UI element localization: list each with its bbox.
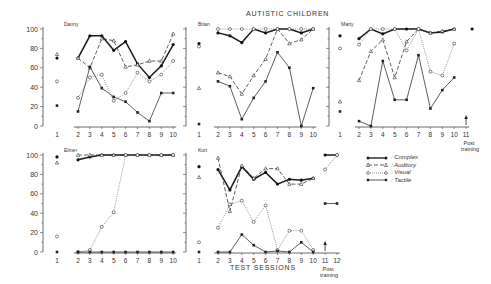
panel-elmer: 02040608010012345678910Elmer xyxy=(26,147,177,264)
svg-text:11: 11 xyxy=(463,131,470,138)
svg-text:10: 10 xyxy=(170,257,178,264)
svg-text:10: 10 xyxy=(310,131,318,138)
complex-line-icon xyxy=(366,155,388,161)
tactile-line-icon xyxy=(366,177,388,183)
svg-text:2: 2 xyxy=(357,131,361,138)
svg-text:60: 60 xyxy=(30,64,38,71)
svg-text:7: 7 xyxy=(276,131,280,138)
svg-text:8: 8 xyxy=(288,131,292,138)
svg-text:40: 40 xyxy=(30,84,38,91)
svg-text:3: 3 xyxy=(88,257,92,264)
svg-text:20: 20 xyxy=(30,103,38,110)
legend-item-visual: : Visual xyxy=(366,169,418,177)
svg-text:7: 7 xyxy=(276,257,280,264)
svg-text:20: 20 xyxy=(30,229,38,236)
svg-text:training: training xyxy=(320,272,338,278)
figure-title: AUTISTIC CHILDREN xyxy=(246,10,329,17)
svg-text:9: 9 xyxy=(159,257,163,264)
svg-text:4: 4 xyxy=(100,131,104,138)
svg-text:6: 6 xyxy=(124,131,128,138)
svg-text:1: 1 xyxy=(197,257,201,264)
svg-text:Marty: Marty xyxy=(341,21,354,27)
svg-text:8: 8 xyxy=(148,257,152,264)
figure-canvas: 02040608010012345678910Danny12345678910B… xyxy=(0,0,491,284)
svg-text:9: 9 xyxy=(299,257,303,264)
svg-text:4: 4 xyxy=(381,131,385,138)
x-axis-label: TEST SESSIONS xyxy=(230,264,296,271)
svg-text:Danny: Danny xyxy=(64,21,79,27)
panel-kurt: 123456789101112KurtPosttraining xyxy=(183,147,341,278)
svg-text:Elmer: Elmer xyxy=(64,147,77,153)
svg-text:Kurt: Kurt xyxy=(198,147,208,153)
svg-text:8: 8 xyxy=(288,257,292,264)
svg-text:100: 100 xyxy=(26,26,38,33)
svg-text:9: 9 xyxy=(299,131,303,138)
svg-text:3: 3 xyxy=(228,257,232,264)
svg-text:60: 60 xyxy=(30,190,38,197)
svg-text:5: 5 xyxy=(112,257,116,264)
svg-text:training: training xyxy=(461,146,479,152)
legend-item-auditory: : Auditory xyxy=(366,162,418,170)
svg-text:4: 4 xyxy=(240,257,244,264)
panel-danny: 02040608010012345678910Danny xyxy=(26,21,177,138)
auditory-line-icon xyxy=(366,162,388,168)
svg-text:6: 6 xyxy=(405,131,409,138)
svg-text:5: 5 xyxy=(112,131,116,138)
legend-item-tactile: : Tactile xyxy=(366,177,418,185)
svg-text:10: 10 xyxy=(170,131,178,138)
svg-text:6: 6 xyxy=(264,257,268,264)
panel-marty: 1234567891011MartyPosttraining xyxy=(326,21,479,152)
svg-text:7: 7 xyxy=(136,131,140,138)
svg-text:2: 2 xyxy=(76,131,80,138)
svg-text:12: 12 xyxy=(333,257,341,264)
svg-text:7: 7 xyxy=(417,131,421,138)
svg-text:3: 3 xyxy=(88,131,92,138)
svg-text:2: 2 xyxy=(216,131,220,138)
legend-label-visual: : Visual xyxy=(391,169,411,177)
svg-text:1: 1 xyxy=(55,257,59,264)
svg-text:5: 5 xyxy=(252,131,256,138)
svg-text:5: 5 xyxy=(252,257,256,264)
svg-text:3: 3 xyxy=(369,131,373,138)
svg-text:11: 11 xyxy=(322,257,329,264)
svg-text:6: 6 xyxy=(264,131,268,138)
svg-text:100: 100 xyxy=(26,152,38,159)
svg-text:5: 5 xyxy=(393,131,397,138)
svg-text:10: 10 xyxy=(310,257,318,264)
svg-text:8: 8 xyxy=(148,131,152,138)
svg-text:1: 1 xyxy=(338,131,342,138)
svg-text:4: 4 xyxy=(240,131,244,138)
legend-label-tactile: : Tactile xyxy=(391,177,411,185)
svg-text:9: 9 xyxy=(440,131,444,138)
svg-text:80: 80 xyxy=(30,171,38,178)
legend-label-complex: : Complex xyxy=(391,154,418,162)
svg-text:1: 1 xyxy=(197,131,201,138)
svg-text:80: 80 xyxy=(30,45,38,52)
svg-text:Brian: Brian xyxy=(198,21,210,27)
legend: : Complex : Auditory : Visual : Tactile xyxy=(366,154,418,184)
svg-text:0: 0 xyxy=(34,123,38,130)
svg-text:1: 1 xyxy=(55,131,59,138)
svg-text:2: 2 xyxy=(216,257,220,264)
svg-text:40: 40 xyxy=(30,210,38,217)
svg-text:8: 8 xyxy=(429,131,433,138)
svg-text:2: 2 xyxy=(76,257,80,264)
svg-text:9: 9 xyxy=(159,131,163,138)
svg-text:7: 7 xyxy=(136,257,140,264)
svg-text:0: 0 xyxy=(34,249,38,256)
legend-label-auditory: : Auditory xyxy=(391,162,416,170)
svg-text:3: 3 xyxy=(228,131,232,138)
visual-line-icon xyxy=(366,170,388,176)
svg-text:6: 6 xyxy=(124,257,128,264)
svg-text:4: 4 xyxy=(100,257,104,264)
legend-item-complex: : Complex xyxy=(366,154,418,162)
panel-brian: 12345678910Brian xyxy=(183,21,317,138)
svg-text:10: 10 xyxy=(451,131,459,138)
